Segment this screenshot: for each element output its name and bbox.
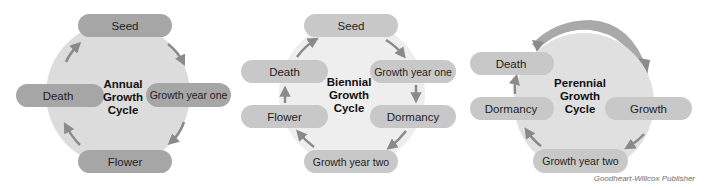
stage-label: Death xyxy=(43,90,74,102)
annual-title: Annual Growth Cycle xyxy=(103,78,143,116)
stage-label: Dormancy xyxy=(387,111,440,123)
biennial-stage-growth-year-two: Growth year two xyxy=(304,150,398,173)
stage-label: Flower xyxy=(267,111,302,123)
stage-label: Growth year two xyxy=(542,155,619,167)
annual-stage-death: Death xyxy=(16,84,104,107)
perennial-stage-dormancy: Dormancy xyxy=(470,97,554,120)
biennial-stage-seed: Seed xyxy=(304,14,398,37)
stage-label: Flower xyxy=(108,156,143,168)
stage-label: Seed xyxy=(338,20,365,32)
stage-label: Growth year one xyxy=(150,89,228,101)
svg-text:Growth: Growth xyxy=(103,91,143,103)
publisher-credit: Goodheart-Willcox Publisher xyxy=(594,174,695,183)
annual-stage-flower: Flower xyxy=(78,150,172,173)
svg-text:Cycle: Cycle xyxy=(565,103,596,115)
biennial-cycle: Seed Growth year one Dormancy Growth yea… xyxy=(241,14,456,173)
biennial-stage-death: Death xyxy=(241,60,328,83)
svg-text:Growth: Growth xyxy=(329,89,369,101)
perennial-stage-death: Death xyxy=(470,52,554,75)
stage-label: Dormancy xyxy=(485,103,538,115)
stage-label: Seed xyxy=(112,20,139,32)
annual-cycle: Seed Growth year one Flower Death Annual… xyxy=(16,14,231,173)
growth-cycle-diagrams: Seed Growth year one Flower Death Annual… xyxy=(0,0,705,187)
svg-text:Cycle: Cycle xyxy=(334,102,365,114)
stage-label: Growth year one xyxy=(374,66,452,78)
perennial-stage-growth: Growth xyxy=(605,97,692,120)
svg-text:Biennial: Biennial xyxy=(327,76,372,88)
svg-text:Growth: Growth xyxy=(560,90,600,102)
perennial-stage-growth-year-two: Growth year two xyxy=(533,149,628,173)
stage-label: Growth year two xyxy=(313,156,390,168)
annual-stage-seed: Seed xyxy=(78,14,172,37)
stage-label: Death xyxy=(496,58,527,70)
stage-label: Death xyxy=(269,66,300,78)
biennial-stage-growth-year-one: Growth year one xyxy=(370,60,456,83)
stage-label: Growth xyxy=(630,103,667,115)
annual-stage-growth-year-one: Growth year one xyxy=(146,83,231,107)
svg-text:Cycle: Cycle xyxy=(108,104,139,116)
svg-text:Annual: Annual xyxy=(104,78,143,90)
svg-text:Perennial: Perennial xyxy=(554,77,606,89)
perennial-cycle: Death Dormancy Growth Growth year two Pe… xyxy=(470,20,692,173)
arrow-icon xyxy=(515,78,516,94)
biennial-stage-dormancy: Dormancy xyxy=(370,105,456,128)
biennial-stage-flower: Flower xyxy=(241,105,328,128)
